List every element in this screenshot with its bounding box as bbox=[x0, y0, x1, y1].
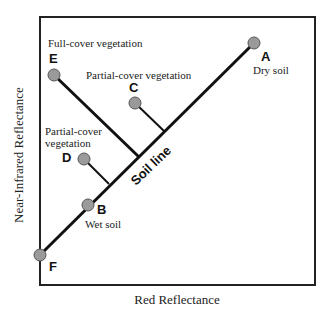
label-a: A bbox=[261, 49, 271, 64]
description-d-line2: vegetation bbox=[45, 137, 91, 149]
label-f: F bbox=[49, 259, 57, 274]
point-e bbox=[48, 69, 60, 81]
label-c: C bbox=[129, 80, 139, 95]
point-a bbox=[248, 37, 260, 49]
point-b bbox=[82, 199, 94, 211]
x-axis-label: Red Reflectance bbox=[134, 292, 220, 307]
point-c bbox=[129, 97, 141, 109]
soil-line-diagram: A B C D E F Dry soil Wet soil Partial-co… bbox=[0, 0, 330, 310]
label-d: D bbox=[62, 150, 71, 165]
soil-line-label: Soil line bbox=[128, 143, 174, 188]
description-e: Full-cover vegetation bbox=[48, 37, 143, 49]
plot-frame bbox=[40, 17, 315, 285]
description-c: Partial-cover vegetation bbox=[86, 69, 192, 81]
label-e: E bbox=[49, 51, 58, 66]
y-axis-label: Near-Infrared Reflectance bbox=[11, 87, 26, 223]
point-d bbox=[78, 153, 90, 165]
description-a: Dry soil bbox=[253, 64, 289, 76]
description-d-line1: Partial-cover bbox=[45, 125, 102, 137]
label-b: B bbox=[97, 202, 106, 217]
point-f bbox=[34, 249, 46, 261]
description-b: Wet soil bbox=[85, 218, 121, 230]
